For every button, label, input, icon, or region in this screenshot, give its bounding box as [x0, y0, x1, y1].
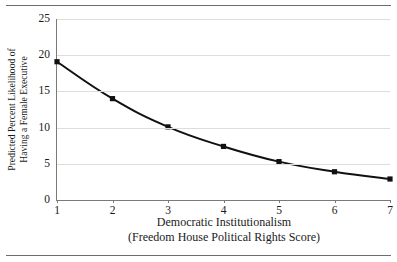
y-axis-tick-label: 25 [39, 13, 51, 25]
y-axis-tick-label: 5 [44, 158, 50, 170]
data-point-marker [332, 169, 337, 174]
x-axis-tick-mark [224, 200, 225, 203]
gridline-y [57, 19, 390, 20]
x-axis-tick-mark [57, 200, 58, 203]
x-axis-tick-mark [168, 200, 169, 203]
x-axis-tick-mark [279, 200, 280, 203]
gridline-y [57, 55, 390, 56]
data-point-marker [387, 176, 392, 181]
data-series-line [57, 19, 390, 200]
y-axis-title-line1: Predicted Percent Likelihood of [6, 48, 18, 170]
y-axis-tick-label: 20 [39, 49, 51, 61]
x-axis-tick-mark [390, 200, 391, 203]
x-axis-tick-mark [335, 200, 336, 203]
y-axis-tick-label: 15 [39, 86, 51, 98]
series-path [57, 62, 390, 179]
y-axis-tick-label: 10 [39, 122, 51, 134]
x-axis-title-line2: (Freedom House Political Rights Score) [57, 230, 391, 245]
data-point-marker [54, 59, 59, 64]
y-axis-tick-label: 0 [44, 194, 50, 206]
gridline-y [57, 128, 390, 129]
x-axis-title-line1: Democratic Institutionalism [57, 215, 391, 230]
y-axis-title-line2: Having a Female Executive [18, 56, 30, 162]
x-axis-tick-mark [113, 200, 114, 203]
x-axis-title: Democratic Institutionalism (Freedom Hou… [57, 215, 391, 245]
gridline-y [57, 164, 390, 165]
data-point-marker [221, 144, 226, 149]
figure-container: 05101520251234567 Predicted Percent Like… [0, 0, 397, 262]
y-axis-title: Predicted Percent Likelihood of Having a… [5, 19, 31, 200]
chart-canvas: 05101520251234567 Predicted Percent Like… [0, 0, 397, 262]
data-point-marker [110, 96, 115, 101]
gridline-y [57, 91, 390, 92]
plot-area: 05101520251234567 [57, 19, 390, 200]
